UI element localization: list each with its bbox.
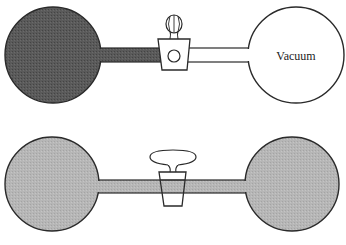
- top-left-tube: [95, 48, 163, 62]
- stopcock-bore-icon: [168, 50, 180, 62]
- bottom-stopcock-open: [150, 150, 196, 206]
- diagram-canvas: Vacuum: [0, 0, 346, 245]
- top-left-bulb-gas: [5, 7, 101, 103]
- top-stopcock-closed: [158, 15, 190, 70]
- bottom-apparatus: [5, 137, 339, 231]
- stopcock-handle-icon: [150, 150, 196, 165]
- bottom-tube: [95, 180, 250, 193]
- bottom-right-bulb-gas: [245, 137, 339, 231]
- top-apparatus: Vacuum: [5, 7, 344, 103]
- top-right-tube: [185, 48, 253, 62]
- bottom-left-bulb-gas: [5, 137, 99, 231]
- vacuum-label: Vacuum: [276, 49, 316, 63]
